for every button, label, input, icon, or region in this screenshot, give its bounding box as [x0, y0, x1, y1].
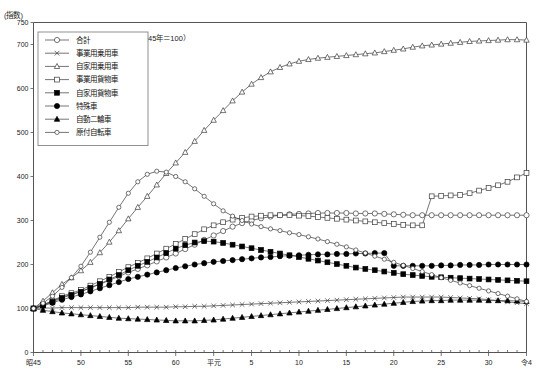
legend-marker-square-open: [55, 77, 60, 82]
data-point: [268, 249, 273, 254]
data-point: [505, 213, 510, 218]
data-point: [164, 268, 169, 273]
data-point: [401, 263, 405, 267]
data-point: [353, 218, 358, 223]
data-point: [145, 272, 150, 277]
data-point: [486, 289, 490, 293]
series-line: [34, 171, 527, 308]
data-point: [391, 222, 396, 227]
data-point: [126, 276, 131, 281]
data-point: [249, 81, 254, 86]
data-point: [107, 283, 112, 288]
data-point: [363, 219, 368, 224]
data-point: [514, 37, 519, 42]
data-point: [486, 186, 491, 191]
data-point: [259, 225, 263, 229]
data-point: [524, 299, 528, 303]
data-point: [420, 269, 424, 273]
legend-label: 自動二輪車: [76, 114, 112, 124]
data-point: [344, 251, 349, 256]
data-point: [278, 213, 283, 218]
data-point: [268, 227, 272, 231]
data-point: [410, 223, 415, 228]
data-point: [183, 264, 188, 269]
data-point: [69, 276, 73, 280]
data-point: [524, 213, 529, 218]
y-tick-label: 700: [17, 41, 29, 48]
data-point: [363, 267, 368, 272]
data-point: [135, 263, 140, 268]
legend-label: 原付自転車: [76, 127, 112, 137]
data-point: [50, 300, 55, 305]
data-point: [344, 245, 348, 249]
data-point: [154, 255, 159, 260]
data-point: [325, 252, 330, 257]
data-point: [211, 223, 216, 228]
data-point: [316, 215, 321, 220]
y-tick-label: 600: [17, 85, 29, 92]
data-point: [353, 265, 358, 270]
data-point: [505, 179, 510, 184]
data-point: [476, 262, 481, 267]
data-point: [145, 172, 149, 176]
data-point: [107, 220, 111, 224]
index-trend-chart: 0100200300400500600700750昭45505560平元5101…: [0, 0, 543, 374]
data-point: [353, 211, 358, 216]
data-point: [193, 187, 197, 191]
data-point: [335, 242, 339, 246]
data-point: [230, 242, 235, 247]
x-tick-label: 30: [485, 359, 493, 366]
data-point: [458, 276, 463, 281]
data-point: [448, 193, 453, 198]
data-point: [524, 262, 529, 267]
series-6: [31, 250, 529, 311]
x-tick-label: 昭45: [26, 359, 41, 367]
data-point: [495, 262, 500, 267]
data-point: [202, 194, 206, 198]
data-point: [192, 240, 197, 245]
data-point: [392, 260, 396, 264]
data-point: [344, 263, 349, 268]
data-point: [420, 274, 425, 279]
data-point: [458, 213, 463, 218]
data-point: [230, 258, 235, 263]
data-point: [334, 210, 339, 215]
data-point: [401, 223, 406, 228]
data-point: [496, 183, 501, 188]
data-point: [439, 213, 444, 218]
y-axis-unit-label: (指数): [4, 10, 23, 20]
data-point: [515, 278, 520, 283]
data-point: [212, 202, 216, 206]
data-point: [411, 266, 415, 270]
data-point: [221, 258, 226, 263]
data-point: [420, 223, 425, 228]
data-point: [60, 285, 64, 289]
data-point: [401, 272, 406, 277]
x-tick-label: 令4: [521, 358, 532, 367]
data-point: [306, 235, 310, 239]
data-point: [183, 237, 188, 242]
data-point: [182, 318, 187, 323]
y-tick-label: 500: [17, 129, 29, 136]
data-point: [249, 246, 254, 251]
data-point: [524, 171, 529, 176]
data-point: [258, 255, 263, 260]
data-point: [316, 237, 320, 241]
data-point: [173, 251, 178, 256]
data-point: [31, 306, 35, 310]
data-point: [448, 263, 453, 268]
legend-label: 合計: [76, 35, 91, 45]
data-point: [439, 193, 444, 198]
data-point: [373, 254, 377, 258]
x-tick-label: 55: [124, 359, 132, 366]
data-point: [363, 251, 367, 255]
data-point: [249, 214, 254, 219]
data-point: [183, 243, 188, 248]
x-tick-label: 25: [437, 359, 445, 366]
data-point: [126, 268, 131, 273]
y-tick-label: 400: [17, 173, 29, 180]
data-point: [136, 180, 140, 184]
data-point: [230, 214, 234, 218]
data-point: [486, 277, 491, 282]
data-point: [334, 262, 339, 267]
